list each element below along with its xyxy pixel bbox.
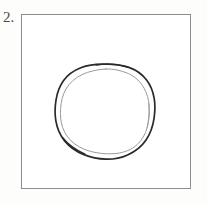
- figure-panel: 2.: [0, 0, 207, 203]
- figure-frame-box: [21, 14, 191, 189]
- figure-number-label: 2.: [3, 9, 14, 26]
